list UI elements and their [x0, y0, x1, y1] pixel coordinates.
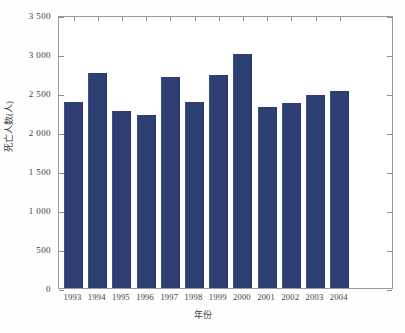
bar	[137, 115, 156, 288]
bar	[330, 91, 349, 288]
bar	[258, 107, 277, 288]
x-tick-label: 2000	[233, 292, 251, 302]
plot-area	[58, 16, 393, 289]
bar	[185, 102, 204, 288]
x-tick-label: 2001	[257, 292, 275, 302]
bar	[209, 75, 228, 288]
y-tick-label: 500	[36, 245, 51, 255]
y-tick-label: 1 000	[29, 206, 51, 216]
y-tick-label: 3 500	[29, 11, 51, 21]
x-tick-label: 1997	[160, 292, 178, 302]
bar	[161, 77, 180, 288]
y-tick-label: 2 000	[29, 128, 51, 138]
bar	[306, 95, 325, 288]
bar	[233, 54, 252, 288]
x-tick-label: 2003	[306, 292, 324, 302]
bar	[88, 73, 107, 288]
y-tick-label: 2 500	[29, 89, 51, 99]
x-axis-title: 年份	[58, 308, 348, 321]
x-tick-label: 1996	[136, 292, 154, 302]
y-tick-label: 0	[46, 284, 51, 294]
y-tick-label: 3 000	[29, 50, 51, 60]
y-tick-mark	[59, 290, 64, 291]
bar	[64, 102, 83, 288]
x-tick-label: 1994	[88, 292, 106, 302]
x-tick-label: 1998	[185, 292, 203, 302]
y-tick-mark-right	[387, 290, 392, 291]
x-tick-label: 2002	[281, 292, 299, 302]
x-tick-label: 2004	[330, 292, 348, 302]
bar	[112, 111, 131, 288]
y-axis-tick-labels: 05001 0001 5002 0002 5003 0003 500	[0, 16, 51, 289]
x-axis-tick-labels: 1993199419951996199719981999200020012002…	[58, 292, 393, 306]
x-tick-label: 1995	[112, 292, 130, 302]
x-tick-label: 1993	[64, 292, 82, 302]
y-tick-label: 1 500	[29, 167, 51, 177]
x-tick-label: 1999	[209, 292, 227, 302]
bar	[282, 103, 301, 288]
bar-chart-figure: 死亡人数(人) 05001 0001 5002 0002 5003 0003 5…	[0, 0, 405, 333]
bars-layer	[59, 17, 392, 288]
